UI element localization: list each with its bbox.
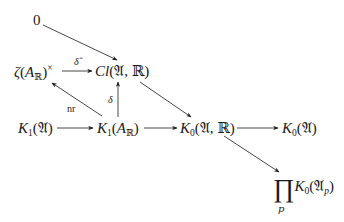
paren: )	[134, 120, 139, 136]
k-symbol: K	[294, 178, 304, 194]
k-symbol: K	[97, 120, 107, 136]
edge-label-delta-hat: δ̂	[74, 57, 79, 67]
node-k0-ar: K0(𝔄, ℝ)	[180, 121, 235, 139]
edge-label-nr: nr	[67, 104, 75, 114]
node-zero: 0	[33, 13, 41, 28]
node-k1-a: K1(𝔄)	[18, 121, 53, 139]
k-args: (𝔄)	[297, 120, 317, 136]
arrow-k1ar-to-zeta	[52, 83, 102, 116]
node-product: ∏K0(𝔄p)	[273, 176, 334, 202]
reals-subscript: ℝ	[126, 128, 134, 138]
paren-close: )	[329, 178, 334, 194]
product-index: p	[278, 203, 284, 214]
k-args: (𝔄)	[33, 120, 53, 136]
node-k1-ar: K1(Aℝ)	[97, 121, 139, 139]
node-k0-a: K0(𝔄)	[282, 121, 317, 139]
paren-open: (𝔄	[309, 178, 324, 194]
units-superscript: ×	[47, 63, 52, 73]
product-symbol: ∏	[273, 174, 294, 203]
node-zeta-units: ζ(Aℝ)×	[14, 64, 53, 83]
k-symbol: K	[282, 120, 292, 136]
reals-subscript: ℝ	[34, 72, 42, 82]
arrow-k0ar-to-prod	[224, 136, 279, 172]
node-cl: Cl(𝔄, ℝ)	[95, 64, 149, 79]
arrow-cl-to-k0ar	[140, 82, 191, 117]
a-symbol: A	[117, 120, 126, 136]
cl-symbol: Cl	[95, 63, 109, 79]
k-symbol: K	[18, 120, 28, 136]
k-symbol: K	[180, 120, 190, 136]
arrow-zero-to-cl	[43, 25, 117, 60]
edge-label-delta: δ	[108, 95, 113, 105]
zero-label: 0	[33, 12, 41, 28]
cl-args: (𝔄, ℝ)	[109, 63, 149, 79]
a-symbol: A	[25, 64, 34, 80]
k-args: (𝔄, ℝ)	[195, 120, 235, 136]
